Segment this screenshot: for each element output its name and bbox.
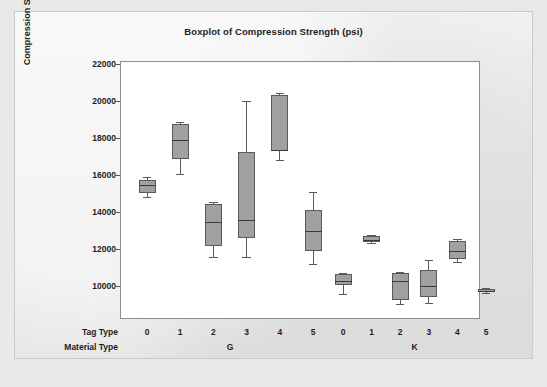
boxplot-g-tag-1[interactable] bbox=[172, 62, 189, 318]
median-line bbox=[449, 251, 466, 252]
boxplot-k-tag-4[interactable] bbox=[449, 62, 466, 318]
tag-tick-g-0: 0 bbox=[137, 327, 157, 337]
chart-title: Boxplot of Compression Strength (psi) bbox=[0, 26, 547, 37]
boxplot-g-tag-4[interactable] bbox=[271, 62, 288, 318]
whisker-cap-lower bbox=[453, 262, 462, 263]
whisker-cap-lower bbox=[482, 293, 491, 294]
median-line bbox=[478, 291, 495, 292]
tag-tick-k-2: 2 bbox=[390, 327, 410, 337]
box-iqr bbox=[271, 95, 288, 152]
box-iqr bbox=[205, 204, 222, 246]
y-tick-label: 14000 bbox=[70, 207, 116, 217]
tag-tick-k-0: 0 bbox=[333, 327, 353, 337]
median-line bbox=[392, 281, 409, 282]
whisker-lower bbox=[246, 238, 247, 257]
median-line bbox=[420, 286, 437, 287]
box-iqr bbox=[392, 273, 409, 301]
box-iqr bbox=[139, 180, 156, 193]
material-group-label-g: G bbox=[210, 342, 250, 352]
whisker-cap-lower bbox=[276, 160, 285, 161]
whisker-lower bbox=[180, 159, 181, 175]
material-type-axis-label: Material Type bbox=[22, 342, 118, 352]
whisker-upper bbox=[313, 192, 314, 211]
tag-type-axis-label: Tag Type bbox=[36, 327, 118, 337]
boxplot-k-tag-1[interactable] bbox=[363, 62, 380, 318]
y-tick-label: 18000 bbox=[70, 133, 116, 143]
whisker-cap-lower bbox=[339, 294, 348, 295]
tag-tick-g-2: 2 bbox=[203, 327, 223, 337]
median-line bbox=[305, 231, 322, 232]
boxplot-g-tag-0[interactable] bbox=[139, 62, 156, 318]
whisker-cap-lower bbox=[242, 257, 251, 258]
box-iqr bbox=[238, 152, 255, 238]
whisker-cap-lower bbox=[176, 174, 185, 175]
y-tick-label: 20000 bbox=[70, 96, 116, 106]
median-line bbox=[238, 220, 255, 221]
whisker-cap-upper bbox=[176, 122, 185, 123]
median-line bbox=[271, 150, 288, 151]
material-group-label-k: K bbox=[395, 342, 435, 352]
whisker-lower bbox=[279, 151, 280, 160]
whisker-lower bbox=[343, 285, 344, 294]
median-line bbox=[172, 140, 189, 141]
tag-tick-g-1: 1 bbox=[170, 327, 190, 337]
median-line bbox=[335, 281, 352, 282]
y-axis-title: Compression Strength (psi) bbox=[22, 0, 32, 96]
whisker-cap-lower bbox=[143, 197, 152, 198]
tag-tick-g-3: 3 bbox=[237, 327, 257, 337]
boxplot-k-tag-5[interactable] bbox=[478, 62, 495, 318]
whisker-cap-upper bbox=[425, 260, 434, 261]
boxplot-k-tag-3[interactable] bbox=[420, 62, 437, 318]
tag-tick-k-5: 5 bbox=[476, 327, 496, 337]
median-line bbox=[205, 222, 222, 223]
whisker-cap-lower bbox=[425, 303, 434, 304]
boxplot-series bbox=[121, 62, 479, 318]
whisker-cap-lower bbox=[367, 243, 376, 244]
boxplot-k-tag-0[interactable] bbox=[335, 62, 352, 318]
whisker-cap-upper bbox=[143, 177, 152, 178]
whisker-cap-upper bbox=[276, 93, 285, 94]
whisker-lower bbox=[213, 246, 214, 257]
median-line bbox=[139, 185, 156, 186]
y-tick-label: 22000 bbox=[70, 59, 116, 69]
tag-tick-g-4: 4 bbox=[270, 327, 290, 337]
box-iqr bbox=[449, 241, 466, 259]
whisker-cap-upper bbox=[309, 192, 318, 193]
tag-tick-g-5: 5 bbox=[303, 327, 323, 337]
plot-area bbox=[120, 61, 480, 319]
whisker-cap-lower bbox=[209, 257, 218, 258]
whisker-lower bbox=[313, 251, 314, 264]
whisker-cap-upper bbox=[453, 239, 462, 240]
whisker-upper bbox=[246, 101, 247, 152]
box-iqr bbox=[172, 124, 189, 158]
y-tick-label: 10000 bbox=[70, 281, 116, 291]
boxplot-g-tag-3[interactable] bbox=[238, 62, 255, 318]
boxplot-g-tag-5[interactable] bbox=[305, 62, 322, 318]
boxplot-g-tag-2[interactable] bbox=[205, 62, 222, 318]
whisker-cap-lower bbox=[396, 304, 405, 305]
box-iqr bbox=[420, 270, 437, 297]
tag-tick-k-3: 3 bbox=[419, 327, 439, 337]
whisker-cap-upper bbox=[242, 101, 251, 102]
boxplot-k-tag-2[interactable] bbox=[392, 62, 409, 318]
y-tick-label: 16000 bbox=[70, 170, 116, 180]
whisker-cap-upper bbox=[209, 202, 218, 203]
tag-tick-k-1: 1 bbox=[362, 327, 382, 337]
y-axis-ticks: 22000200001800016000140001200010000 bbox=[66, 61, 116, 319]
median-line bbox=[363, 240, 380, 241]
whisker-upper bbox=[428, 260, 429, 269]
whisker-cap-lower bbox=[309, 264, 318, 265]
box-iqr bbox=[335, 274, 352, 284]
whisker-cap-upper bbox=[367, 235, 376, 236]
y-tick-label: 12000 bbox=[70, 244, 116, 254]
tag-tick-k-4: 4 bbox=[447, 327, 467, 337]
